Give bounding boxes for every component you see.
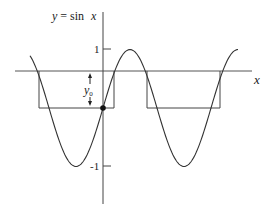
rectangle-right bbox=[147, 71, 220, 108]
x-axis-label: x bbox=[253, 72, 260, 87]
y0-label: y0 bbox=[83, 83, 93, 98]
sine-diagram: y = sin x x 1 -1 y0 bbox=[0, 0, 276, 214]
y0-arrow-down-icon bbox=[88, 97, 92, 106]
title-label: y = sin x bbox=[51, 9, 97, 23]
tick-label-1: 1 bbox=[94, 43, 100, 55]
tick-label-minus-1: -1 bbox=[90, 160, 99, 172]
intersection-dot bbox=[100, 105, 106, 111]
